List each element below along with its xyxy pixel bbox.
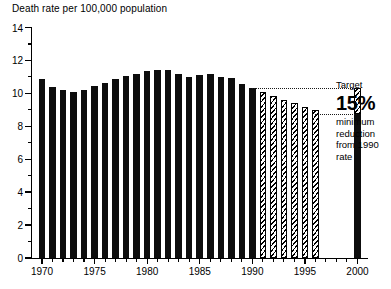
x-axis-minor-tick [115,258,116,262]
annotation-line-2: reduction [336,128,391,140]
annotation-line-3: from 1990 [336,139,391,151]
bar-1978 [123,76,130,258]
x-axis-minor-tick [262,258,263,262]
x-axis-tick [252,258,253,264]
y-axis-minor-tick [28,241,32,242]
x-axis-tick [41,258,42,264]
bar-1982 [165,70,172,258]
annotation-body: minimum reduction from 1990 rate [336,116,391,162]
y-axis-tick-label: 8 [0,121,23,132]
y-axis-tick [25,126,31,127]
y-axis-tick [25,93,31,94]
bar-1974 [81,90,88,258]
x-axis-tick-label: 1990 [230,266,274,277]
x-axis-tick [304,258,305,264]
bar-1976 [102,83,109,258]
y-axis-minor-tick [28,208,32,209]
x-axis-minor-tick [346,258,347,262]
bar-1983 [175,74,182,258]
bar-1987 [218,77,225,258]
bar-1996 [312,110,319,258]
x-axis-minor-tick [157,258,158,262]
y-axis-tick [25,159,31,160]
x-axis-minor-tick [168,258,169,262]
x-axis-minor-tick [220,258,221,262]
x-axis-tick [147,258,148,264]
x-axis-minor-tick [178,258,179,262]
y-axis-tick-label: 4 [0,187,23,198]
bar-1988 [228,78,235,258]
bar-1970 [39,79,46,258]
annotation-target-label: Target [336,79,391,91]
y-axis-tick-label: 2 [0,220,23,231]
bar-1984 [186,77,193,258]
bar-1990 [249,88,256,258]
x-axis-tick-label: 1995 [283,266,327,277]
x-axis-tick-label: 1980 [125,266,169,277]
x-axis-tick-label: 1985 [178,266,222,277]
y-axis-minor-tick [28,109,32,110]
y-axis-tick-label: 12 [0,55,23,66]
y-axis-tick [25,224,31,225]
bar-1995 [302,107,309,258]
bar-1980 [144,71,151,258]
y-axis-minor-tick [28,76,32,77]
bar-1977 [112,79,119,258]
x-axis-tick [94,258,95,264]
x-axis-minor-tick [241,258,242,262]
x-axis-minor-tick [283,258,284,262]
y-axis-tick [25,60,31,61]
x-axis-minor-tick [83,258,84,262]
x-axis-minor-tick [105,258,106,262]
x-axis-minor-tick [73,258,74,262]
x-axis-minor-tick [231,258,232,262]
y-axis-minor-tick [28,142,32,143]
chart-figure: Death rate per 100,000 population 024681… [0,0,391,289]
y-axis-tick-label: 0 [0,253,23,264]
bar-1971 [49,87,56,258]
x-axis-minor-tick [325,258,326,262]
x-axis-minor-tick [189,258,190,262]
bar-1989 [239,84,246,258]
bar-1985 [196,75,203,258]
bar-1994 [291,103,298,258]
annotation-line-1: minimum [336,116,391,128]
x-axis-minor-tick [210,258,211,262]
annotation-percent: 15% [336,92,391,114]
x-axis-minor-tick [294,258,295,262]
x-axis-tick-label: 1975 [73,266,117,277]
x-axis-minor-tick [52,258,53,262]
x-axis-minor-tick [315,258,316,262]
x-axis-minor-tick [136,258,137,262]
bar-1979 [133,74,140,258]
plot-area: 024681012141970197519801985199019952000 [0,0,391,289]
x-axis-minor-tick [62,258,63,262]
x-axis-tick-label: 2000 [335,266,379,277]
y-axis-tick [25,27,31,28]
bar-1981 [154,70,161,258]
y-axis-tick [25,191,31,192]
x-axis-tick [199,258,200,264]
bar-1992 [270,96,277,258]
bar-1993 [281,100,288,258]
bar-1986 [207,74,214,258]
y-axis-minor-tick [28,175,32,176]
annotation-line-4: rate [336,151,391,163]
bar-1973 [70,92,77,258]
target-annotation: Target 15% minimum reduction from 1990 r… [336,79,391,162]
x-axis-minor-tick [336,258,337,262]
y-axis-tick-label: 14 [0,22,23,33]
x-axis-minor-tick [273,258,274,262]
y-axis-tick-label: 6 [0,154,23,165]
y-axis-line [31,27,32,259]
y-axis-minor-tick [28,43,32,44]
y-axis-tick-label: 10 [0,88,23,99]
y-axis-tick [25,257,31,258]
bar-1991 [260,92,267,258]
x-axis-tick-label: 1970 [20,266,64,277]
bar-1975 [91,86,98,258]
bar-1972 [60,90,67,258]
x-axis-tick [357,258,358,264]
x-axis-minor-tick [126,258,127,262]
